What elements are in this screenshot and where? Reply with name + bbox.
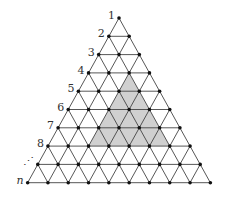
- grid-edge: [89, 91, 99, 109]
- grid-node: [178, 126, 182, 130]
- grid-edge: [170, 164, 180, 182]
- grid-edge: [58, 146, 68, 164]
- row-label: 2: [98, 27, 105, 40]
- grid-node: [148, 71, 152, 75]
- grid-edge: [99, 146, 109, 164]
- grid-node: [97, 53, 101, 57]
- row-label: 5: [67, 82, 74, 95]
- grid-edge: [149, 146, 159, 164]
- grid-edge: [89, 146, 99, 164]
- grid-edge: [170, 128, 180, 146]
- grid-edge: [149, 73, 159, 91]
- row-label: 8: [37, 137, 44, 150]
- grid-node: [158, 126, 162, 130]
- grid-edge: [78, 146, 88, 164]
- grid-edge: [160, 91, 170, 109]
- grid-node: [87, 108, 91, 112]
- row-label: 7: [47, 119, 54, 132]
- grid-edge: [78, 128, 88, 146]
- row-label: 6: [57, 101, 64, 114]
- grid-node: [158, 163, 162, 167]
- grid-edge: [139, 164, 149, 182]
- grid-node: [198, 163, 202, 167]
- grid-edge: [68, 146, 78, 164]
- grid-node: [127, 181, 131, 185]
- grid-node: [66, 108, 70, 112]
- grid-node: [66, 181, 70, 185]
- grid-edge: [58, 164, 68, 182]
- grid-node: [107, 35, 111, 39]
- grid-node: [77, 89, 81, 93]
- grid-edge: [149, 164, 159, 182]
- grid-edge: [78, 110, 88, 128]
- grid-edge: [89, 110, 99, 128]
- grid-edge: [99, 55, 109, 73]
- grid-edge: [109, 146, 119, 164]
- grid-edge: [129, 146, 139, 164]
- row-labels: 12345678⋰n: [17, 9, 115, 187]
- row-label: 4: [78, 64, 85, 77]
- grid-edge: [160, 164, 170, 182]
- grid-node: [168, 144, 172, 148]
- grid-node: [138, 53, 142, 57]
- grid-edge: [99, 73, 109, 91]
- grid-node: [127, 35, 131, 39]
- grid-node: [77, 126, 81, 130]
- grid-node: [178, 163, 182, 167]
- grid-node: [148, 108, 152, 112]
- grid-node: [97, 126, 101, 130]
- grid-edge: [68, 110, 78, 128]
- grid-edge: [200, 164, 210, 182]
- grid-node: [117, 163, 121, 167]
- grid-edge: [180, 164, 190, 182]
- grid-node: [97, 163, 101, 167]
- grid-node: [117, 16, 121, 20]
- grid-node: [138, 89, 142, 93]
- grid-node: [66, 144, 70, 148]
- grid-edge: [190, 164, 200, 182]
- grid-edge: [129, 36, 139, 54]
- grid-edge: [99, 91, 109, 109]
- grid-edge: [109, 73, 119, 91]
- grid-node: [188, 181, 192, 185]
- grid-edge: [48, 146, 58, 164]
- grid-node: [209, 181, 213, 185]
- grid-edge: [68, 128, 78, 146]
- grid-edge: [129, 55, 139, 73]
- grid-edge: [119, 146, 129, 164]
- grid-node: [127, 108, 131, 112]
- triangular-grid-diagram: 12345678⋰n: [0, 0, 225, 197]
- grid-edge: [170, 110, 180, 128]
- grid-node: [148, 144, 152, 148]
- grid-node: [188, 144, 192, 148]
- grid-edge: [109, 164, 119, 182]
- row-label: 3: [88, 46, 95, 59]
- grid-edge: [109, 36, 119, 54]
- grid-node: [87, 181, 91, 185]
- grid-edge: [48, 164, 58, 182]
- grid-node: [168, 108, 172, 112]
- grid-edge: [180, 146, 190, 164]
- grid-node: [107, 181, 111, 185]
- grid-edge: [180, 128, 190, 146]
- grid-node: [26, 181, 30, 185]
- grid-node: [117, 126, 121, 130]
- grid-edge: [89, 164, 99, 182]
- grid-node: [127, 144, 131, 148]
- grid-edge: [119, 55, 129, 73]
- grid-edge: [89, 73, 99, 91]
- grid-edge: [109, 55, 119, 73]
- grid-edge: [119, 36, 129, 54]
- grid-edge: [160, 110, 170, 128]
- grid-node: [117, 53, 121, 57]
- grid-edge: [139, 146, 149, 164]
- grid-edge: [129, 164, 139, 182]
- grid-node: [117, 89, 121, 93]
- grid-node: [56, 163, 60, 167]
- grid-edge: [160, 146, 170, 164]
- grid-node: [148, 181, 152, 185]
- grid-node: [107, 71, 111, 75]
- grid-node: [168, 181, 172, 185]
- grid-edge: [139, 55, 149, 73]
- grid-node: [97, 89, 101, 93]
